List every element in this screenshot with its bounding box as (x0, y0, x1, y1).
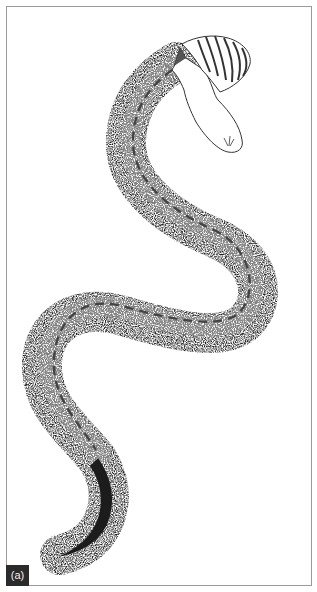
snake-illustration (0, 0, 317, 592)
snake-head (172, 36, 250, 152)
panel-label: (a) (6, 565, 29, 586)
